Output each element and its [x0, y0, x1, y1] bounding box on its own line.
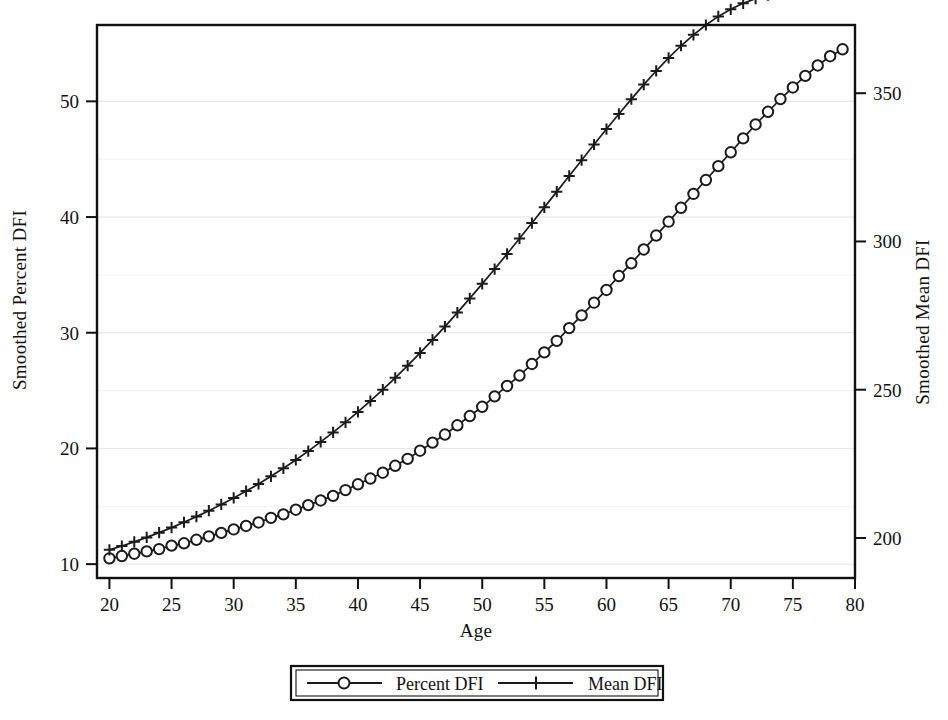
circle-marker [142, 546, 152, 556]
circle-marker [825, 51, 835, 61]
circle-marker [465, 411, 475, 421]
circle-marker [390, 461, 400, 471]
plus-marker [191, 511, 202, 522]
legend-label-mean-dfi: Mean DFI [588, 674, 663, 694]
gridlines-group [97, 101, 855, 564]
x-tick-label: 60 [597, 594, 616, 615]
x-axis-ticks: 20253035404550556065707580 [100, 578, 865, 615]
circle-marker [129, 549, 139, 559]
circle-marker [688, 189, 698, 199]
y-left-tick-label: 30 [60, 323, 79, 344]
x-tick-label: 35 [286, 594, 305, 615]
circle-marker [440, 429, 450, 439]
y-left-tick-label: 20 [60, 438, 79, 459]
x-tick-label: 40 [348, 594, 367, 615]
x-tick-label: 55 [535, 594, 554, 615]
series-percent-dfi [104, 44, 848, 563]
circle-marker [303, 500, 313, 510]
circle-marker [179, 538, 189, 548]
y-axis-right-title: Smoothed Mean DFI [912, 239, 933, 405]
plus-marker [762, 0, 773, 1]
circle-marker [402, 454, 412, 464]
plus-marker [725, 4, 736, 15]
plus-marker [265, 471, 276, 482]
circle-marker [813, 60, 823, 70]
circle-marker [514, 370, 524, 380]
series-group [104, 0, 848, 564]
circle-marker [539, 347, 549, 357]
plus-marker [178, 517, 189, 528]
circle-marker [589, 297, 599, 307]
series-mean-dfi [104, 0, 848, 555]
chart-canvas: 20253035404550556065707580 1020304050 20… [0, 0, 948, 720]
circle-marker [154, 544, 164, 554]
circle-marker [763, 107, 773, 117]
circle-marker [339, 678, 350, 689]
x-tick-label: 50 [473, 594, 492, 615]
y-right-tick-label: 250 [873, 380, 902, 401]
circle-marker [328, 491, 338, 501]
circle-marker [663, 216, 673, 226]
circle-marker [278, 509, 288, 519]
y-axis-left-ticks: 1020304050 [60, 91, 97, 575]
circle-marker [253, 517, 263, 527]
circle-marker [365, 473, 375, 483]
x-tick-label: 75 [783, 594, 802, 615]
circle-marker [340, 485, 350, 495]
x-tick-label: 70 [721, 594, 740, 615]
y-axis-left-title: Smoothed Percent DFI [9, 210, 30, 390]
x-tick-label: 30 [224, 594, 243, 615]
y-left-tick-label: 50 [60, 91, 79, 112]
plot-frame [97, 25, 855, 578]
plus-marker [241, 486, 252, 497]
plus-marker [216, 499, 227, 510]
circle-marker [241, 521, 251, 531]
circle-marker [291, 505, 301, 515]
circle-marker [576, 310, 586, 320]
circle-marker [216, 528, 226, 538]
plus-marker [228, 492, 239, 503]
plus-marker [290, 454, 301, 465]
plus-marker [278, 463, 289, 474]
x-tick-label: 80 [846, 594, 865, 615]
x-tick-label: 65 [659, 594, 678, 615]
circle-marker [266, 513, 276, 523]
circle-marker [626, 258, 636, 268]
chart-legend[interactable]: Percent DFI Mean DFI [291, 666, 663, 700]
y-right-tick-label: 300 [873, 231, 902, 252]
circle-marker [228, 524, 238, 534]
circle-marker [726, 147, 736, 157]
x-axis-title: Age [460, 620, 493, 641]
circle-marker [489, 391, 499, 401]
y-right-tick-label: 350 [873, 83, 902, 104]
y-axis-right-ticks: 200250300350 [855, 83, 902, 549]
x-tick-label: 25 [162, 594, 181, 615]
y-left-tick-label: 10 [60, 554, 79, 575]
plus-marker [713, 11, 724, 22]
circle-marker [117, 551, 127, 561]
circle-marker [204, 531, 214, 541]
circle-marker [601, 285, 611, 295]
plus-marker [116, 540, 127, 551]
x-tick-label: 20 [100, 594, 119, 615]
circle-marker [552, 336, 562, 346]
circle-marker [564, 323, 574, 333]
circle-marker [527, 359, 537, 369]
circle-marker [477, 402, 487, 412]
circle-marker [738, 133, 748, 143]
circle-marker [651, 230, 661, 240]
circle-marker [452, 420, 462, 430]
plus-marker [141, 532, 152, 543]
circle-marker [713, 161, 723, 171]
legend-label-percent-dfi: Percent DFI [396, 674, 483, 694]
circle-marker [800, 71, 810, 81]
circle-marker [701, 175, 711, 185]
circle-marker [788, 82, 798, 92]
circle-marker [166, 540, 176, 550]
plus-marker [154, 527, 165, 538]
circle-marker [639, 244, 649, 254]
circle-marker [427, 437, 437, 447]
circle-marker [315, 495, 325, 505]
circle-marker [191, 535, 201, 545]
plus-marker [166, 522, 177, 533]
